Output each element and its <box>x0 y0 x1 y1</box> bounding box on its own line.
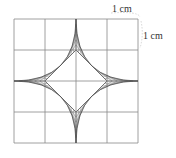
label-right-unit: 1 cm <box>143 30 163 41</box>
diagram-canvas <box>0 0 176 158</box>
label-top-unit: 1 cm <box>112 3 132 14</box>
